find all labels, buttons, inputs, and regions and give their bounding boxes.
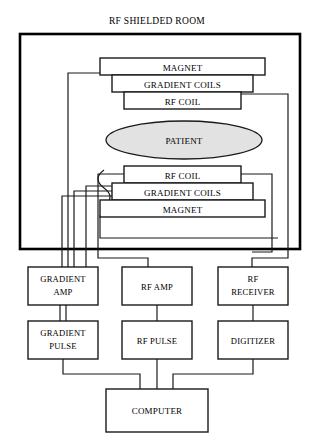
block-rf-coil-top: RF COIL bbox=[124, 92, 241, 109]
block-digitizer: DIGITIZER bbox=[218, 321, 288, 359]
page-title: RF SHIELDED ROOM bbox=[109, 16, 205, 26]
block-label-gradient-pulse-line2: PULSE bbox=[49, 341, 76, 351]
block-label-magnet-top: MAGNET bbox=[163, 63, 203, 73]
block-computer: COMPUTER bbox=[106, 389, 208, 432]
block-magnet-bottom: MAGNET bbox=[100, 200, 265, 217]
mri-block-diagram: RF SHIELDED ROOM bbox=[0, 0, 314, 439]
block-label-gradient-coils-bottom: GRADIENT COILS bbox=[144, 188, 221, 198]
wire-rf-coil-top-right bbox=[240, 94, 288, 267]
wire-digitizer-to-computer bbox=[173, 359, 253, 389]
patient-shape: PATIENT bbox=[106, 121, 262, 159]
block-label-rf-amp-line1: RF AMP bbox=[141, 282, 173, 292]
block-label-gradient-coils-top: GRADIENT COILS bbox=[144, 80, 221, 90]
wire-gradpulse-to-computer bbox=[63, 359, 140, 389]
figure-canvas: RF SHIELDED ROOM bbox=[0, 0, 314, 439]
wire-magnet-bottom-baseline bbox=[100, 215, 278, 238]
block-label-rf-coil-bottom: RF COIL bbox=[165, 171, 201, 181]
block-gradient-pulse: GRADIENT PULSE bbox=[28, 321, 98, 359]
block-rf-amp: RF AMP bbox=[122, 267, 192, 305]
block-gradient-amp: GRADIENT AMP bbox=[28, 267, 98, 305]
block-gradient-coils-top: GRADIENT COILS bbox=[112, 75, 253, 92]
patient-label: PATIENT bbox=[165, 136, 202, 146]
block-label-rf-pulse-line1: RF PULSE bbox=[137, 336, 178, 346]
block-rf-pulse: RF PULSE bbox=[122, 321, 192, 359]
block-label-gradient-pulse-line1: GRADIENT bbox=[40, 328, 86, 338]
block-label-computer: COMPUTER bbox=[132, 406, 183, 416]
block-label-magnet-bottom: MAGNET bbox=[163, 205, 203, 215]
block-rf-coil-bottom: RF COIL bbox=[124, 166, 241, 183]
block-label-rf-receiver-line2: RECEIVER bbox=[231, 287, 275, 297]
block-rf-receiver: RF RECEIVER bbox=[218, 267, 288, 305]
wire-gradient-bottom-c bbox=[86, 186, 112, 267]
block-label-digitizer-line1: DIGITIZER bbox=[231, 336, 275, 346]
block-label-gradient-amp-line2: AMP bbox=[53, 287, 72, 297]
block-label-rf-receiver-line1: RF bbox=[248, 274, 259, 284]
block-gradient-coils-bottom: GRADIENT COILS bbox=[112, 183, 253, 200]
block-label-rf-coil-top: RF COIL bbox=[165, 97, 201, 107]
block-magnet-top: MAGNET bbox=[100, 58, 265, 75]
block-label-gradient-amp-line1: GRADIENT bbox=[40, 274, 86, 284]
